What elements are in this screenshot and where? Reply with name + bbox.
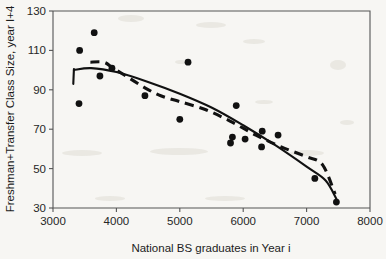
data-point xyxy=(142,92,149,99)
x-axis-title: National BS graduates in Year i xyxy=(131,242,290,254)
y-tick-label: 70 xyxy=(33,123,46,135)
data-point xyxy=(233,102,240,109)
data-point xyxy=(97,73,104,80)
y-tick-label: 30 xyxy=(33,202,46,214)
data-point xyxy=(227,140,234,147)
trend-curve-start-tick xyxy=(73,69,74,84)
scatter-chart: 30507090110130300040005000600070008000 N… xyxy=(0,0,386,259)
data-point xyxy=(333,199,340,206)
data-point xyxy=(91,29,98,36)
data-point xyxy=(229,134,236,141)
x-tick-label: 6000 xyxy=(230,215,256,227)
data-point xyxy=(185,59,192,66)
data-point xyxy=(242,136,249,143)
data-point xyxy=(259,128,266,135)
y-tick-label: 50 xyxy=(33,163,46,175)
chart-canvas: 30507090110130300040005000600070008000 N… xyxy=(0,0,386,259)
data-point xyxy=(109,65,116,72)
y-tick-label: 90 xyxy=(33,84,46,96)
data-point xyxy=(76,47,83,54)
x-tick-label: 5000 xyxy=(167,215,193,227)
y-tick-label: 130 xyxy=(27,5,46,17)
data-point xyxy=(275,132,282,139)
data-point xyxy=(76,100,83,107)
data-point xyxy=(258,144,265,151)
x-tick-label: 3000 xyxy=(40,215,66,227)
y-axis-title: Freshman+Transfer Class Size, year I+4 xyxy=(4,5,16,212)
x-tick-label: 4000 xyxy=(104,215,130,227)
y-tick-label: 110 xyxy=(28,44,46,56)
x-tick-label: 8000 xyxy=(357,215,383,227)
data-point xyxy=(176,116,183,123)
x-tick-label: 7000 xyxy=(294,215,320,227)
data-point xyxy=(311,175,318,182)
